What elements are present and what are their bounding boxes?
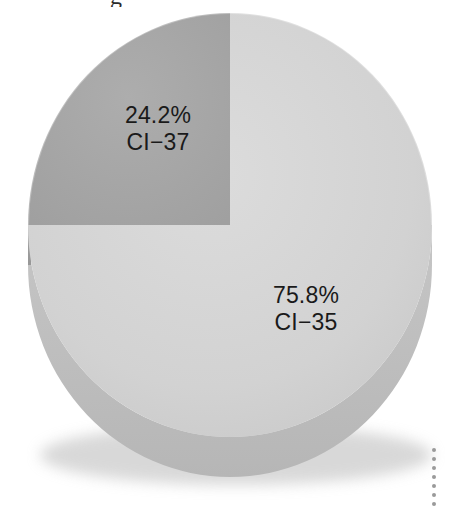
separator-dot bbox=[432, 457, 436, 461]
slice-label-light: 75.8% CI−35 bbox=[244, 282, 368, 336]
page-gutter-dots bbox=[430, 448, 438, 511]
separator-dot bbox=[432, 475, 436, 479]
pie-chart-graphic bbox=[0, 0, 462, 511]
slice-label-dark: 24.2% CI−37 bbox=[96, 102, 220, 156]
separator-dot bbox=[432, 493, 436, 497]
separator-dot bbox=[432, 448, 436, 452]
slice-category-dark: CI−37 bbox=[96, 129, 220, 156]
slice-percent-light: 75.8% bbox=[244, 282, 368, 309]
slice-percent-dark: 24.2% bbox=[96, 102, 220, 129]
separator-dot bbox=[432, 466, 436, 470]
separator-dot bbox=[432, 502, 436, 506]
slice-category-light: CI−35 bbox=[244, 309, 368, 336]
separator-dot bbox=[432, 484, 436, 488]
pie-chart-figure: g bbox=[0, 0, 462, 511]
